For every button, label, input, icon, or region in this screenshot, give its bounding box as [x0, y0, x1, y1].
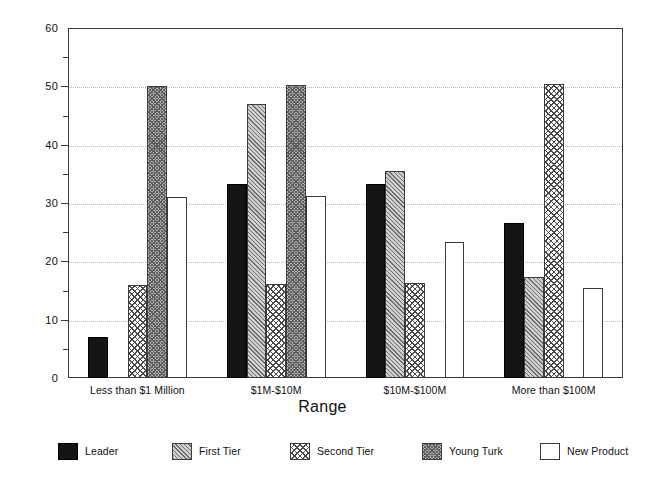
legend-swatch-icon	[290, 443, 310, 460]
legend-swatch-icon	[58, 443, 78, 460]
bar	[366, 184, 386, 378]
y-axis: 0102030405060	[0, 0, 68, 380]
bar	[524, 277, 544, 379]
legend-item[interactable]: Leader	[58, 440, 118, 462]
y-axis-tick-label: 40	[45, 139, 58, 151]
legend-swatch-icon	[172, 443, 192, 460]
legend-label: Young Turk	[449, 445, 503, 457]
legend-item[interactable]: Second Tier	[290, 440, 374, 462]
bar	[504, 223, 524, 378]
bar	[306, 196, 326, 378]
bar	[583, 288, 603, 378]
legend-item[interactable]: New Product	[540, 440, 628, 462]
bar	[167, 197, 187, 378]
y-axis-tick-label: 50	[45, 80, 58, 92]
bar	[88, 337, 108, 378]
legend-item[interactable]: First Tier	[172, 440, 241, 462]
bar	[405, 283, 425, 378]
x-axis-title: Range	[0, 398, 645, 416]
bar	[544, 84, 564, 378]
legend-label: Second Tier	[317, 445, 374, 457]
y-axis-tick-label: 30	[45, 197, 58, 209]
y-axis-tick-label: 10	[45, 314, 58, 326]
bar	[128, 285, 148, 378]
legend-item[interactable]: Young Turk	[422, 440, 503, 462]
bar	[286, 85, 306, 378]
bar	[445, 242, 465, 379]
legend-swatch-icon	[540, 443, 560, 460]
bar	[266, 284, 286, 378]
legend-label: Leader	[85, 445, 118, 457]
bar	[227, 184, 247, 378]
legend-label: First Tier	[199, 445, 241, 457]
x-axis-category-label: $1M-$10M	[251, 384, 302, 396]
y-axis-tick-label: 20	[45, 255, 58, 267]
y-axis-tick-label: 60	[45, 22, 58, 34]
chart-canvas: 0102030405060 Less than $1 Million$1M-$1…	[0, 0, 645, 485]
legend-swatch-icon	[422, 443, 442, 460]
bar	[247, 104, 267, 378]
chart-legend: LeaderFirst TierSecond TierYoung TurkNew…	[0, 440, 645, 466]
bars-layer	[68, 28, 623, 378]
x-axis-category-label: Less than $1 Million	[90, 384, 185, 396]
legend-label: New Product	[567, 445, 628, 457]
x-axis-category-label: More than $100M	[512, 384, 596, 396]
y-axis-tick-label: 0	[52, 372, 58, 384]
x-axis-category-label: $10M-$100M	[383, 384, 446, 396]
bar	[147, 86, 167, 378]
bar	[385, 171, 405, 378]
